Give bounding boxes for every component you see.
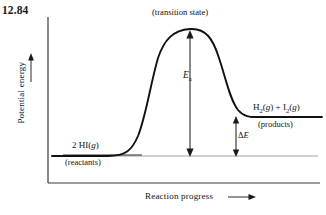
- delta-e-arrowhead-up-icon: [233, 116, 239, 124]
- x-axis-right-arrow-icon: [249, 194, 257, 200]
- potential-energy-curve: [52, 29, 322, 156]
- transition-state-label: (transition state): [152, 8, 208, 17]
- reactants-formula-suffix: ): [96, 140, 99, 150]
- reactants-formula-prefix: 2 HI(: [72, 140, 91, 150]
- y-axis-up-arrow-icon: [28, 53, 34, 61]
- products-word-label: (products): [258, 120, 293, 129]
- activation-energy-subscript: a: [189, 75, 192, 82]
- x-axis-label: Reaction progress: [145, 192, 213, 201]
- reaction-energy-diagram-figure: 12.84 (transition state) Ea ΔE 2 HI(g): [0, 0, 326, 215]
- delta-e-label: ΔE: [238, 131, 249, 140]
- activation-energy-arrowhead-up-icon: [186, 30, 193, 39]
- reactants-word-label: (reactants): [65, 158, 101, 167]
- y-axis-label: Potential energy: [17, 51, 26, 135]
- products-plus-sign: +: [273, 102, 283, 112]
- products-i-state-close: ): [297, 102, 300, 112]
- delta-e-variable: E: [244, 130, 249, 140]
- reactants-formula: 2 HI(g): [72, 141, 99, 150]
- products-formula: H2(g) + I2(g): [253, 103, 300, 115]
- activation-energy-label: Ea: [183, 71, 192, 83]
